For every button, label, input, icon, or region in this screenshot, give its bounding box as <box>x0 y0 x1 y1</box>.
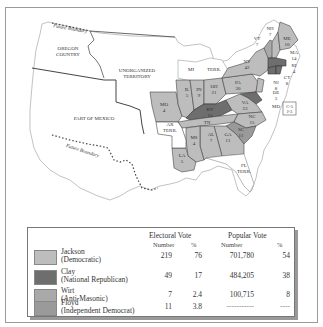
swatch-floyd <box>34 301 57 316</box>
label-pa: PA <box>235 80 241 85</box>
ev-percent: 17 <box>182 271 202 280</box>
ev-number: 219 <box>152 251 172 260</box>
label-ky: KY <box>206 107 214 112</box>
label-me: ME <box>283 36 291 41</box>
label-ma: MA <box>290 50 298 55</box>
label-nc: NC <box>249 114 257 119</box>
votes-sc: 11 <box>239 133 244 138</box>
label-de: DE <box>273 90 280 95</box>
ev-number: 11 <box>152 302 172 311</box>
ev-number: 7 <box>152 290 172 299</box>
md-jackson-votes: J-3 <box>287 109 293 114</box>
label-mi: MI <box>188 67 194 72</box>
label-mexico: PART OF MEXICO <box>74 116 115 121</box>
votes-ky: 15 <box>208 113 214 118</box>
pv-number-header: Number <box>221 241 242 248</box>
label-oh: OH <box>210 84 218 89</box>
votes-ma: 14 <box>292 56 298 61</box>
label-in: IN <box>196 87 202 92</box>
votes-ri: 4 <box>293 69 296 74</box>
legend-row-jackson: Jackson(Democratic) 219 76 701,780 54 <box>34 248 292 266</box>
votes-nc: 15 <box>250 120 256 125</box>
candidate-label: Floyd(Independent Democrat) <box>61 299 135 315</box>
swatch-clay <box>34 270 57 285</box>
pv-percent: 38 <box>270 271 290 280</box>
legend-table: Electoral Vote Popular Vote Number % Num… <box>27 227 295 317</box>
candidate-label: Clay(National Republican) <box>61 268 128 284</box>
pv-number: ----------- <box>214 302 254 311</box>
votes-ny: 42 <box>245 65 251 70</box>
label-mi-terr: TERR. <box>207 67 221 72</box>
ev-percent: 3.8 <box>182 302 202 311</box>
legend-row-clay: Clay(National Republican) 49 17 484,205 … <box>34 268 292 286</box>
popular-vote-header: Popular Vote <box>228 231 267 240</box>
ev-percent-header: % <box>191 241 196 248</box>
label-md: MD <box>272 104 280 109</box>
candidate-label: Jackson(Democratic) <box>61 248 101 264</box>
votes-ga: 11 <box>226 138 231 143</box>
label-unorg-2: TERRITORY <box>123 74 151 79</box>
label-oregon-1: OREGON <box>58 46 79 51</box>
md-split-box: C-5 J-3 <box>283 102 296 115</box>
label-ga: GA <box>224 132 232 137</box>
ev-number-header: Number <box>153 241 174 248</box>
label-la: LA <box>179 153 186 158</box>
ev-percent: 76 <box>182 251 202 260</box>
votes-pa: 30 <box>236 86 242 91</box>
votes-oh: 21 <box>212 90 218 95</box>
candidate-party: (Democratic) <box>61 255 101 264</box>
candidate-party: (National Republican) <box>61 275 128 284</box>
legend-row-floyd: Floyd(Independent Democrat) 11 3.8 -----… <box>34 299 292 317</box>
md-clay-votes: C-5 <box>286 104 294 109</box>
pv-number: 701,780 <box>214 251 254 260</box>
label-fl-2: TERR. <box>237 169 251 174</box>
pv-number: 484,205 <box>214 271 254 280</box>
label-il: IL <box>185 87 190 92</box>
label-ar-1: AR <box>167 122 175 127</box>
label-al: AL <box>208 132 215 137</box>
label-ny: NY <box>243 59 251 64</box>
label-vt: VT <box>254 36 261 41</box>
label-ar-2: TERR. <box>163 128 177 133</box>
label-mo: MO <box>160 102 168 107</box>
votes-va: 23 <box>243 106 249 111</box>
pv-number: 100,715 <box>214 290 254 299</box>
label-nj: NJ <box>273 80 279 85</box>
label-fl-1: FL <box>241 163 247 168</box>
label-tn: TN <box>204 120 211 125</box>
label-sc: SC <box>238 127 245 132</box>
label-oregon-2: COUNTRY <box>56 52 80 57</box>
candidate-party: (Independent Democrat) <box>61 306 135 315</box>
pv-percent-header: % <box>277 241 282 248</box>
label-unorg-1: UNORGANIZED <box>119 68 156 73</box>
swatch-jackson <box>34 250 57 265</box>
pv-percent: 54 <box>270 251 290 260</box>
label-ct: CT <box>284 75 290 80</box>
ev-percent: 2.4 <box>182 290 202 299</box>
label-nh: NH <box>266 26 274 31</box>
label-va: VA <box>242 100 249 105</box>
pv-percent: 8 <box>270 290 290 299</box>
label-ms: MS <box>190 135 197 140</box>
electoral-vote-header: Electoral Vote <box>149 231 191 240</box>
ev-number: 49 <box>152 271 172 280</box>
pv-percent: ---- <box>270 302 290 311</box>
votes-me: 10 <box>285 42 291 47</box>
label-ri: RI <box>292 63 297 68</box>
